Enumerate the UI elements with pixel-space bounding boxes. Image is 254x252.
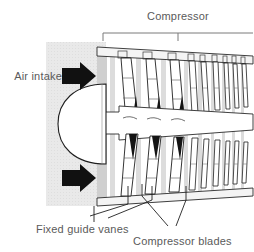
compressor-blades-label: Compressor blades — [133, 235, 232, 247]
fixed-guide-vanes-label: Fixed guide vanes — [36, 223, 129, 235]
compressor-label: Compressor — [147, 10, 209, 22]
compressor-bracket — [103, 33, 253, 41]
air-intake-label: Air intake — [14, 70, 62, 82]
compressor-diagram-figure: Compressor Air intake Fixed guide vanes … — [0, 0, 254, 252]
diagram-canvas: Compressor Air intake Fixed guide vanes … — [0, 0, 254, 252]
